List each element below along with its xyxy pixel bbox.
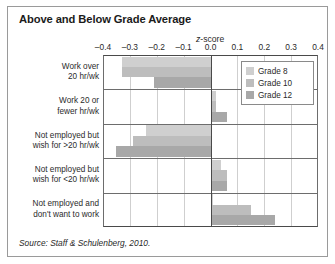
category-label-line: Work 20 or	[7, 96, 99, 107]
source-caption: Source: Staff & Schulenberg, 2010.	[19, 238, 150, 248]
x-axis-tick-label: –0.3	[122, 42, 138, 52]
category-label-line: wish for >20 hr/wk	[7, 141, 99, 152]
x-axis-tick-label: 0.3	[285, 42, 297, 52]
category-label-line: don't want to work	[7, 210, 99, 221]
x-axis-tick-label: 0.1	[232, 42, 244, 52]
legend: Grade 8Grade 10Grade 12	[241, 61, 314, 105]
zero-reference-line	[211, 55, 212, 227]
category-label-line: Not employed and	[7, 199, 99, 210]
x-axis-tick-label: –0.2	[149, 42, 165, 52]
category-label-line: Not employed but	[7, 165, 99, 176]
x-axis-tick-label: –0.1	[175, 42, 191, 52]
legend-swatch	[246, 67, 254, 75]
y-axis-category-label: Work 20 orfewer hr/wk	[7, 96, 99, 117]
legend-label: Grade 10	[258, 79, 292, 88]
page-title: Above and Below Grade Average	[19, 13, 191, 25]
category-label-line: Work over	[7, 62, 99, 73]
category-label-line: Not employed but	[7, 131, 99, 142]
legend-swatch	[246, 79, 254, 87]
legend-item: Grade 12	[246, 89, 309, 101]
legend-label: Grade 8	[258, 67, 288, 76]
y-axis-category-label: Not employed butwish for >20 hr/wk	[7, 131, 99, 152]
x-axis-tick-label: 0.2	[258, 42, 270, 52]
x-axis-tick-label: –0.4	[95, 42, 111, 52]
category-label-line: wish for <20 hr/wk	[7, 175, 99, 186]
x-axis-tick-label: 0.4	[312, 42, 324, 52]
legend-label: Grade 12	[258, 91, 292, 100]
legend-item: Grade 10	[246, 77, 309, 89]
legend-swatch	[246, 91, 254, 99]
y-axis-category-label: Not employed anddon't want to work	[7, 199, 99, 220]
y-axis-category-label: Work over20 hr/wk	[7, 62, 99, 83]
figure-container: Above and Below Grade Average z-score –0…	[0, 0, 335, 264]
category-label-line: 20 hr/wk	[7, 72, 99, 83]
x-axis-tick-label: 0.0	[205, 42, 217, 52]
legend-item: Grade 8	[246, 65, 309, 77]
y-axis-category-label: Not employed butwish for <20 hr/wk	[7, 165, 99, 186]
category-label-line: fewer hr/wk	[7, 107, 99, 118]
